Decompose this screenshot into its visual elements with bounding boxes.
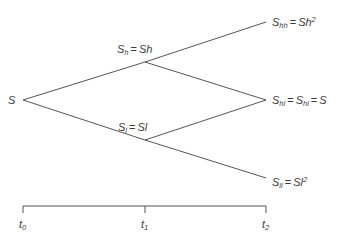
node-down-label: Sl=Sl	[118, 121, 147, 137]
edge-up-updown	[145, 62, 266, 100]
t2-sub: 2	[265, 223, 269, 232]
edge-root-up	[23, 62, 145, 100]
node-down-rhs: Sl	[137, 121, 147, 133]
edge-down-downdown	[145, 140, 266, 178]
node-up-label: Sh=Sh	[117, 43, 152, 59]
tree-edges	[0, 0, 344, 240]
node-downdown-rhs: Sl	[293, 176, 303, 188]
node-updown-rhs: S	[319, 94, 326, 106]
binomial-tree-diagram: S Sh=Sh Sl=Sl Shh=Sh2 Shl=Shl=S Sll=Sl2 …	[0, 0, 344, 240]
node-root-label: S	[8, 94, 15, 106]
node-upup-sub: hh	[279, 21, 287, 30]
node-downdown-label: Sll=Sl2	[272, 174, 307, 192]
node-up-eq: =	[129, 43, 139, 55]
node-up-sub: h	[124, 48, 128, 57]
timeline-label-t0: t0	[19, 218, 26, 234]
node-updown-eq2: =	[309, 94, 319, 106]
node-updown-eq1: =	[285, 94, 295, 106]
node-root-base: S	[8, 94, 15, 106]
node-updown-sub2: hl	[303, 99, 309, 108]
edge-down-updown	[145, 100, 266, 140]
node-downdown-rhs-sup: 2	[303, 175, 307, 184]
node-updown-label: Shl=Shl=S	[272, 94, 327, 110]
timeline-label-t1: t1	[141, 218, 148, 234]
node-up-rhs: Sh	[139, 43, 152, 55]
node-downdown-eq: =	[283, 176, 293, 188]
edge-up-upup	[145, 22, 266, 62]
node-upup-rhs-sup: 2	[312, 15, 316, 24]
node-updown-base2: S	[296, 94, 303, 106]
timeline-label-t2: t2	[262, 218, 269, 234]
node-upup-eq: =	[288, 16, 298, 28]
t1-sub: 1	[144, 223, 148, 232]
t0-sub: 0	[22, 223, 26, 232]
node-upup-label: Shh=Sh2	[272, 14, 316, 32]
node-down-eq: =	[127, 121, 137, 133]
node-upup-rhs: Sh	[298, 16, 311, 28]
